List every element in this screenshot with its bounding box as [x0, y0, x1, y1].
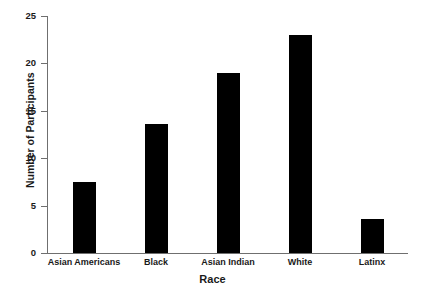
bar — [73, 182, 96, 253]
y-tick-label: 20 — [6, 58, 36, 68]
y-tick-mark — [41, 16, 47, 17]
y-tick-mark — [41, 63, 47, 64]
x-tick-label: White — [288, 258, 313, 267]
x-tick-label: Black — [144, 258, 168, 267]
bar-chart-figure: Number of Participants 0510152025 Asian … — [0, 0, 425, 297]
y-tick-label: 15 — [6, 106, 36, 116]
y-tick-mark — [41, 253, 47, 254]
bar — [145, 124, 168, 253]
x-tick-label: Latinx — [359, 258, 386, 267]
y-tick-mark — [41, 206, 47, 207]
y-tick-label: 0 — [6, 248, 36, 258]
bar — [217, 73, 240, 253]
y-axis-title: Number of Participants — [25, 45, 36, 215]
plot-area — [48, 16, 408, 253]
y-tick-mark — [41, 111, 47, 112]
bar — [361, 219, 384, 253]
y-tick-mark — [41, 158, 47, 159]
y-tick-label: 10 — [6, 153, 36, 163]
x-tick-label: Asian Indian — [201, 258, 255, 267]
y-tick-label: 25 — [6, 11, 36, 21]
bar — [289, 35, 312, 253]
x-tick-label: Asian Americans — [48, 258, 121, 267]
x-axis-line — [47, 253, 408, 254]
x-axis-title: Race — [0, 274, 425, 285]
y-tick-label: 5 — [6, 201, 36, 211]
